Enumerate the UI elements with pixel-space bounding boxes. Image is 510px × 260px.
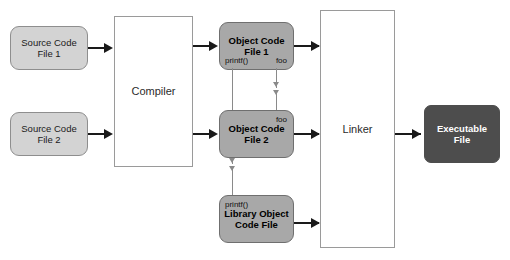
node-object-code-file-1: Object Code File 1 printf() foo [219,22,294,70]
object-code-file-2-line1: Object Code [229,123,285,134]
executable-file-line2: File [454,134,470,145]
reference-arrowhead-printf-lower [229,166,235,171]
arrow-source1-to-compiler-head [104,43,113,53]
arrow-compiler-to-object1-head [209,41,218,51]
library-object-code-file-symbol-printf: printf() [225,201,248,209]
arrow-source2-to-compiler-head [104,129,113,139]
reference-arrowhead-printf-upper [229,158,235,163]
arrow-compiler-to-object2-head [209,129,218,139]
object-code-file-2-symbol-foo: foo [276,116,287,124]
reference-arrowhead-foo-lower [273,90,279,95]
object-code-file-1-line1: Object Code [229,35,285,46]
object-code-file-1-symbol-foo: foo [276,57,287,65]
linker-label: Linker [343,123,373,136]
node-linker: Linker [320,10,395,248]
node-executable-file: Executable File [424,105,500,163]
source-code-file-2-line1: Source Code [21,123,76,134]
compiler-linker-diagram: Source Code File 1 Source Code File 2 Co… [0,0,510,260]
node-library-object-code-file: Library Object Code File printf() [219,195,294,243]
executable-file-line1: Executable [437,123,487,134]
library-object-code-file-line2: Code File [235,219,278,230]
reference-arrowhead-foo-upper [273,82,279,87]
object-code-file-2-line2: File 2 [244,134,268,145]
node-source-code-file-2: Source Code File 2 [10,112,88,156]
library-object-code-file-line1: Library Object [224,208,288,219]
arrow-object1-to-linker-head [311,41,320,51]
source-code-file-1-line1: Source Code [21,37,76,48]
node-object-code-file-2: Object Code File 2 foo [219,110,294,158]
compiler-label: Compiler [131,85,175,98]
arrow-object2-to-linker-head [311,129,320,139]
arrow-linker-to-executable-head [412,129,421,139]
node-source-code-file-1: Source Code File 1 [10,26,88,70]
node-compiler: Compiler [114,16,193,167]
arrow-library-to-linker-head [311,218,320,228]
object-code-file-1-symbol-printf: printf() [225,57,248,65]
source-code-file-2-line2: File 2 [37,134,60,145]
source-code-file-1-line2: File 1 [37,48,60,59]
